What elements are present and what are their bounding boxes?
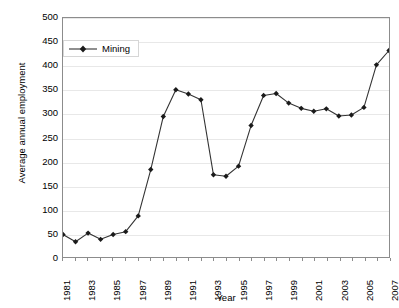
x-axis-tick: [176, 258, 177, 261]
data-point-marker: [261, 93, 266, 98]
data-point-marker: [311, 109, 316, 114]
data-point-marker: [299, 106, 304, 111]
data-point-marker: [336, 113, 341, 118]
data-point-marker: [248, 123, 253, 128]
x-axis-tick: [390, 258, 391, 261]
y-axis-tick-label: 250: [22, 133, 58, 143]
x-axis-tick: [163, 258, 164, 261]
data-point-marker: [361, 105, 366, 110]
data-point-marker: [161, 114, 166, 119]
data-point-marker: [349, 112, 354, 117]
data-point-marker: [198, 97, 203, 102]
series-mining: [63, 48, 389, 245]
x-axis-tick: [87, 258, 88, 261]
data-point-marker: [186, 91, 191, 96]
mining-markers: [63, 48, 389, 245]
x-axis-tick: [340, 258, 341, 261]
y-axis-tick-label: 200: [22, 157, 58, 167]
x-axis-tick: [327, 258, 328, 261]
mining-line: [63, 51, 389, 242]
x-axis-tick: [377, 258, 378, 261]
chart-container: Average annual employment 50045040035030…: [0, 0, 399, 308]
x-axis-tick: [150, 258, 151, 261]
data-point-marker: [98, 237, 103, 242]
data-point-marker: [110, 232, 115, 237]
x-axis-tick: [302, 258, 303, 261]
y-axis-tick-label: 500: [22, 12, 58, 22]
x-axis-tick: [112, 258, 113, 261]
x-axis-tick: [289, 258, 290, 261]
x-axis-tick: [100, 258, 101, 261]
x-axis-tick: [226, 258, 227, 261]
x-axis-tick: [251, 258, 252, 261]
x-axis-tick: [276, 258, 277, 261]
x-axis-tick: [213, 258, 214, 261]
y-axis-tick-label: 50: [22, 229, 58, 239]
x-axis-title: Year: [62, 292, 390, 304]
y-axis-tick-label: 150: [22, 181, 58, 191]
x-axis-tick: [365, 258, 366, 261]
y-axis-tick-label: 300: [22, 108, 58, 118]
legend-label-mining: Mining: [102, 43, 130, 54]
x-axis-tick: [264, 258, 265, 261]
y-axis-tick-label: 350: [22, 84, 58, 94]
x-axis-tick: [138, 258, 139, 261]
y-axis-tick-label: 400: [22, 60, 58, 70]
data-point-marker: [324, 106, 329, 111]
y-axis-tick-label: 450: [22, 36, 58, 46]
x-axis-tick: [201, 258, 202, 261]
data-point-marker: [148, 167, 153, 172]
x-axis-tick-label: 2007: [390, 291, 399, 301]
x-axis-tick: [314, 258, 315, 261]
x-axis-tick: [62, 258, 63, 261]
x-axis-tick: [75, 258, 76, 261]
x-axis-tick: [352, 258, 353, 261]
x-axis-tick: [188, 258, 189, 261]
x-axis-tick: [125, 258, 126, 261]
data-point-marker: [211, 172, 216, 177]
chart-legend: Mining: [63, 40, 139, 57]
x-axis-tick-labels: 1981198319851987198919911993199519971999…: [0, 258, 399, 294]
data-point-marker: [173, 87, 178, 92]
legend-marker-icon: [68, 44, 98, 54]
y-axis-tick-label: 100: [22, 205, 58, 215]
x-axis-tick: [239, 258, 240, 261]
